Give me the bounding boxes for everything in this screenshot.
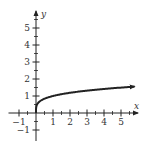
chart: xy−112345−112345 xyxy=(0,0,150,143)
y-tick-label: −1 xyxy=(17,125,30,135)
y-tick-label: 3 xyxy=(24,57,30,67)
tick-labels: xy−112345−112345 xyxy=(12,9,139,135)
y-tick-label: 5 xyxy=(24,23,30,33)
x-tick-label: 1 xyxy=(50,117,56,127)
y-tick-label: 2 xyxy=(24,74,30,84)
x-tick-label: 5 xyxy=(118,117,124,127)
x-axis-label: x xyxy=(134,101,139,111)
y-axis-label: y xyxy=(40,9,47,19)
y-tick-label: 1 xyxy=(24,91,30,101)
x-tick-label: 2 xyxy=(67,117,73,127)
series-line xyxy=(36,87,135,113)
x-tick-label: 3 xyxy=(84,117,90,127)
series xyxy=(36,87,135,113)
x-tick-label: 4 xyxy=(101,117,107,127)
y-tick-label: 4 xyxy=(24,40,30,50)
